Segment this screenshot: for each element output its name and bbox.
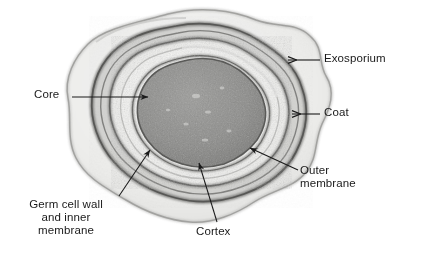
label-germ-cell-wall: Germ cell wall and inner membrane (6, 198, 126, 237)
label-exosporium: Exosporium (324, 52, 386, 65)
label-coat: Coat (324, 106, 349, 119)
label-core: Core (34, 88, 59, 101)
label-outer-membrane: Outer membrane (300, 164, 356, 190)
label-cortex: Cortex (196, 225, 230, 238)
figure-canvas: Exosporium Coat Outer membrane Cortex Co… (0, 0, 426, 260)
